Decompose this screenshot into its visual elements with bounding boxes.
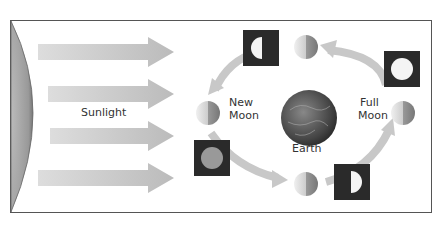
phase-box-full bbox=[384, 51, 420, 87]
sunlight-label: Sunlight bbox=[81, 106, 126, 119]
moon-top-icon bbox=[294, 35, 318, 59]
sunlight-arrow-4 bbox=[38, 163, 174, 193]
phase-box-first-quarter bbox=[334, 164, 370, 200]
sun-shape bbox=[11, 21, 33, 212]
full-moon-label-line1: Full bbox=[360, 96, 379, 109]
new-moon-label-line1: New bbox=[229, 96, 253, 109]
phase-box-new bbox=[194, 140, 230, 176]
moon-new-icon bbox=[196, 101, 220, 125]
sunlight-arrow-3 bbox=[50, 121, 174, 151]
earth-icon bbox=[281, 90, 337, 146]
sunlight-arrow-1 bbox=[38, 37, 174, 67]
new-moon-label-line2: Moon bbox=[229, 109, 259, 122]
moon-bottom-icon bbox=[294, 172, 318, 196]
phase-box-last-quarter bbox=[243, 30, 279, 66]
earth-label: Earth bbox=[292, 142, 322, 155]
full-moon-label-line2: Moon bbox=[358, 109, 388, 122]
moon-full-icon bbox=[391, 101, 415, 125]
sunlight-arrow-2 bbox=[48, 79, 174, 109]
